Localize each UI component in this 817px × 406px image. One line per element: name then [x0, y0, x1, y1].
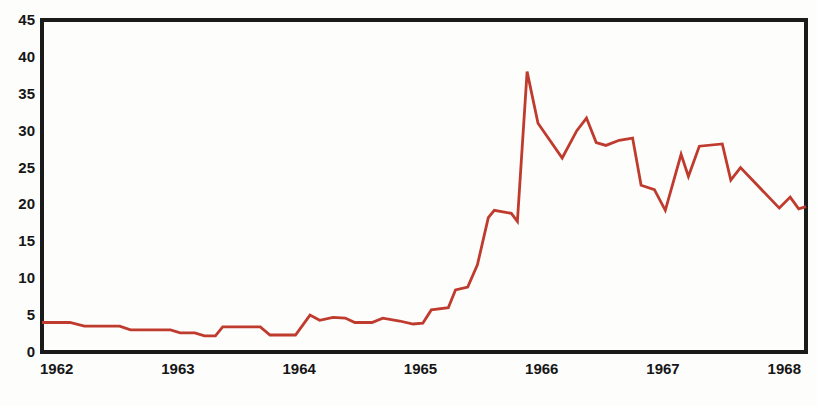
data-line-monthly-value	[42, 72, 806, 336]
y-axis-label: 20	[0, 195, 35, 213]
y-axis-label: 10	[0, 269, 35, 287]
y-axis-label: 0	[0, 343, 35, 361]
y-axis-label: 45	[0, 11, 35, 29]
line-chart-figure: 0510152025303540451962196319641965196619…	[0, 0, 817, 406]
x-axis-label: 1966	[525, 360, 558, 378]
x-axis-label: 1963	[161, 360, 194, 378]
y-axis-label: 35	[0, 85, 35, 103]
chart-canvas	[0, 0, 817, 406]
plot-frame	[42, 20, 806, 352]
x-axis-label: 1967	[646, 360, 679, 378]
x-axis-label: 1962	[40, 360, 73, 378]
y-axis-label: 30	[0, 122, 35, 140]
y-axis-label: 5	[0, 306, 35, 324]
x-axis-label: 1965	[404, 360, 437, 378]
x-axis-label: 1968	[768, 360, 801, 378]
y-axis-label: 25	[0, 159, 35, 177]
y-axis-label: 15	[0, 232, 35, 250]
x-axis-label: 1964	[283, 360, 316, 378]
y-axis-label: 40	[0, 48, 35, 66]
